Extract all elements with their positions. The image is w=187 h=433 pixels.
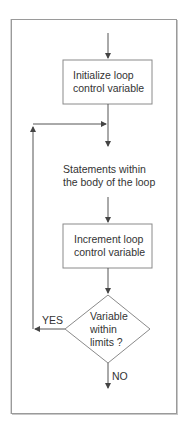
- initialize-line-2: control variable: [73, 82, 144, 95]
- decision-line-1: Variable: [90, 310, 128, 323]
- yes-label: YES: [42, 314, 63, 326]
- initialize-box-text: Initialize loop control variable: [73, 69, 144, 95]
- increment-line-2: control variable: [74, 246, 145, 259]
- decision-line-2: within: [90, 323, 128, 336]
- body-statements-text: Statements within the body of the loop: [63, 163, 155, 189]
- increment-line-1: Increment loop: [74, 233, 145, 246]
- increment-box-text: Increment loop control variable: [74, 233, 145, 259]
- body-line-1: Statements within: [63, 163, 155, 176]
- flowchart-svg: [0, 0, 187, 433]
- initialize-line-1: Initialize loop: [73, 69, 144, 82]
- decision-line-3: limits ?: [90, 336, 128, 349]
- body-line-2: the body of the loop: [63, 176, 155, 189]
- no-label: NO: [112, 370, 128, 382]
- decision-text: Variable within limits ?: [90, 310, 128, 349]
